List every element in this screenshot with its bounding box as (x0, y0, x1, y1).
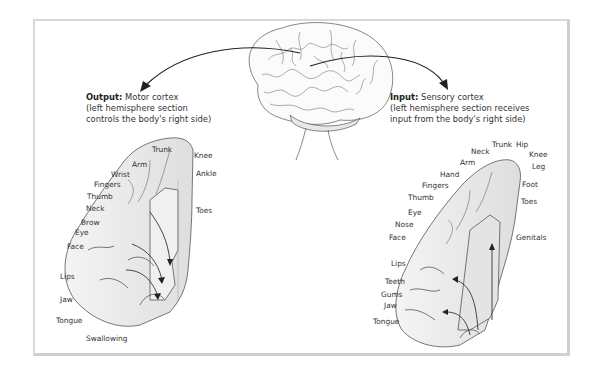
sensory-label-teeth: Teeth (385, 277, 405, 286)
diagram-art (0, 0, 601, 373)
motor-label-tongue: Tongue (56, 316, 82, 325)
output-caption: Output: Motor cortex (left hemisphere se… (86, 92, 211, 125)
sensory-label-leg: Leg (532, 162, 545, 171)
sensory-label-gums: Gums (381, 290, 402, 299)
sensory-label-fingers: Fingers (422, 181, 449, 190)
motor-label-swallowing: Swallowing (86, 334, 127, 343)
input-caption-title: Sensory cortex (421, 92, 484, 102)
motor-label-face: Face (67, 242, 84, 251)
motor-label-toes: Toes (196, 206, 212, 215)
sensory-label-hip: Hip (516, 140, 528, 149)
sensory-label-hand: Hand (440, 170, 459, 179)
sensory-label-nose: Nose (395, 220, 413, 229)
input-caption-line3: input from the body's right side) (390, 114, 529, 125)
output-caption-line2: (left hemisphere section (86, 103, 211, 114)
output-caption-title: Motor cortex (125, 92, 178, 102)
sensory-label-arm: Arm (460, 158, 475, 167)
motor-label-neck: Neck (86, 204, 104, 213)
brain-illustration (249, 23, 393, 160)
sensory-label-knee: Knee (529, 150, 548, 159)
sensory-label-neck: Neck (471, 147, 489, 156)
sensory-label-genitals: Genitals (516, 233, 546, 242)
output-caption-bold: Output: (86, 92, 122, 102)
motor-label-ankle: Ankle (196, 169, 217, 178)
motor-label-trunk: Trunk (152, 145, 172, 154)
motor-label-jaw: Jaw (60, 295, 73, 304)
input-arrowhead (439, 79, 448, 90)
sensory-label-thumb: Thumb (408, 193, 434, 202)
sensory-label-foot: Foot (522, 180, 538, 189)
motor-label-fingers: Fingers (94, 180, 121, 189)
input-caption-line2: (left hemisphere section receives (390, 103, 529, 114)
sensory-label-face: Face (389, 233, 406, 242)
motor-label-lips: Lips (60, 272, 75, 281)
motor-label-arm: Arm (132, 160, 147, 169)
sensory-label-toes: Toes (521, 197, 537, 206)
motor-label-thumb: Thumb (87, 192, 113, 201)
sensory-label-jaw: Jaw (384, 301, 397, 310)
sensory-label-eye: Eye (408, 208, 422, 217)
sensory-cortex-section (396, 160, 521, 347)
sensory-label-trunk: Trunk (492, 140, 512, 149)
sensory-label-lips: Lips (391, 259, 406, 268)
motor-label-knee: Knee (194, 151, 213, 160)
output-caption-line3: controls the body's right side) (86, 114, 211, 125)
input-caption: Input: Sensory cortex (left hemisphere s… (390, 92, 529, 125)
input-caption-bold: Input: (390, 92, 418, 102)
motor-label-eye: Eye (75, 228, 89, 237)
motor-label-brow: Brow (81, 218, 100, 227)
motor-label-wrist: Wrist (111, 170, 130, 179)
sensory-label-tongue: Tongue (373, 317, 399, 326)
